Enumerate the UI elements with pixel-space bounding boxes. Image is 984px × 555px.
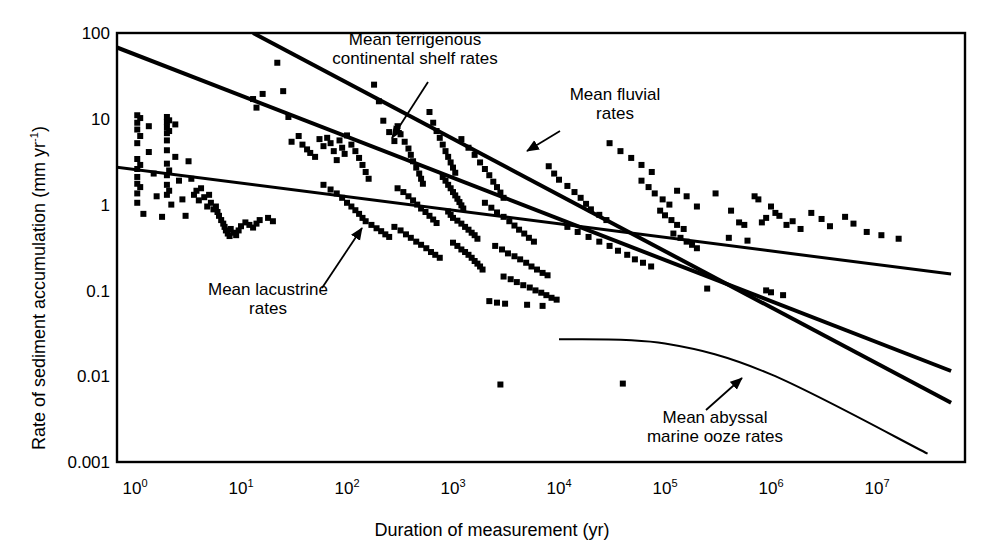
xtick-exp: 1 (247, 477, 253, 489)
ytick-label-10: 10 (66, 111, 110, 128)
data-point (511, 253, 517, 259)
data-point (328, 140, 334, 146)
data-point (583, 201, 589, 207)
data-point (607, 140, 613, 146)
data-point (534, 267, 540, 273)
data-point (736, 219, 742, 225)
data-point (164, 147, 170, 153)
data-point (615, 248, 621, 254)
data-point (798, 226, 804, 232)
data-point (726, 235, 732, 241)
data-point (166, 128, 172, 134)
data-point (363, 218, 369, 224)
annotation-arrows-layer (322, 82, 742, 410)
data-point (531, 239, 537, 245)
data-point (477, 159, 483, 165)
xtick-base: 10 (758, 479, 777, 498)
annotation-abyssal: Mean abyssalmarine ooze rates (600, 408, 830, 447)
xtick-exp: 2 (353, 477, 359, 489)
scatter-points-layer (134, 60, 901, 388)
xtick-label-1e3: 103 (428, 478, 478, 497)
data-point (172, 121, 178, 127)
data-point (694, 245, 700, 251)
xtick-label-1e4: 104 (534, 478, 584, 497)
data-point (646, 184, 652, 190)
data-point (342, 151, 348, 157)
data-point (253, 105, 259, 111)
data-point (517, 256, 523, 262)
data-point (551, 171, 557, 177)
ytick-label-0.01: 0.01 (52, 368, 110, 385)
data-point (134, 174, 140, 180)
data-point (546, 163, 552, 169)
data-point (164, 137, 170, 143)
data-point (586, 234, 592, 240)
annotation-lacustrine: Mean lacustrinerates (168, 280, 368, 319)
data-point (564, 183, 570, 189)
annotation-fluvial: Mean fluvialrates (520, 85, 710, 124)
data-point (386, 234, 392, 240)
data-point (420, 181, 426, 187)
data-point (578, 195, 584, 201)
data-point (827, 223, 833, 229)
ytick-label-0.001: 0.001 (42, 454, 110, 471)
data-point (776, 213, 782, 219)
data-point (684, 193, 690, 199)
data-point (312, 154, 318, 160)
x-axis-title: Duration of measurement (yr) (0, 520, 984, 541)
data-point (768, 289, 774, 295)
data-point (296, 133, 302, 139)
data-point (543, 292, 549, 298)
data-point (395, 185, 401, 191)
data-point (488, 205, 494, 211)
data-point (514, 279, 520, 285)
data-point (744, 238, 750, 244)
data-point (640, 260, 646, 266)
data-point (437, 135, 443, 141)
annotation-line-1: Mean lacustrine (208, 280, 328, 299)
data-point (499, 246, 505, 252)
data-point (430, 120, 436, 126)
data-point (391, 138, 397, 144)
data-point (398, 227, 404, 233)
data-point (450, 165, 456, 171)
data-point (440, 142, 446, 148)
data-point (808, 210, 814, 216)
data-point (452, 170, 458, 176)
data-point (426, 109, 432, 115)
data-point (289, 139, 295, 145)
data-point (516, 227, 522, 233)
data-point (418, 242, 424, 248)
ytick-label-100: 100 (66, 25, 110, 42)
data-point (359, 162, 365, 168)
data-point (400, 189, 406, 195)
annotation-line-2: rates (596, 104, 634, 123)
data-point (166, 188, 172, 194)
data-point (768, 204, 774, 210)
data-point (380, 118, 386, 124)
data-point (617, 148, 623, 154)
data-point (660, 196, 666, 202)
data-point (694, 204, 700, 210)
xtick-label-1e6: 106 (746, 478, 796, 497)
data-point (486, 172, 492, 178)
data-point (490, 179, 496, 185)
xtick-label-1e5: 105 (640, 478, 690, 497)
data-point (482, 166, 488, 172)
data-point (328, 186, 334, 192)
data-point (316, 136, 322, 142)
data-point (159, 214, 165, 220)
data-point (532, 287, 538, 293)
data-point (662, 212, 668, 218)
data-point (352, 148, 358, 154)
data-point (704, 286, 710, 292)
ytick-label-0.1: 0.1 (60, 283, 110, 300)
data-point (632, 256, 638, 262)
xtick-base: 10 (546, 479, 565, 498)
data-point (790, 218, 796, 224)
data-point (366, 176, 372, 182)
data-point (137, 133, 143, 139)
data-point (437, 255, 443, 261)
data-point (628, 155, 634, 161)
data-point (666, 202, 672, 208)
